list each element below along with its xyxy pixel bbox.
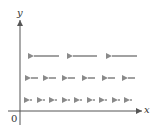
origin-label: 0 [11,114,17,124]
y-axis-label: y [17,8,23,18]
vector-field-diagram: y x 0 [0,0,158,130]
x-axis-label: x [144,105,150,115]
plot-area [0,0,158,130]
vector-arrows [30,56,137,100]
